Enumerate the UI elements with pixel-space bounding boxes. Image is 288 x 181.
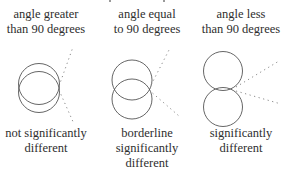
lower-circle	[112, 79, 152, 119]
angle-line-lower	[59, 90, 74, 124]
lower-circle	[204, 88, 243, 127]
lower-circle	[19, 72, 60, 113]
label-line: significantly	[195, 126, 287, 141]
significance-label-significant: significantly different	[195, 126, 287, 156]
label-line: different	[195, 141, 287, 156]
angle-line-lower	[149, 90, 179, 116]
panel-not-significant	[19, 47, 75, 124]
angle-line-upper	[149, 50, 169, 89]
significance-label-borderline: borderline significantly different	[100, 126, 194, 171]
angle-line-lower	[236, 91, 281, 104]
significance-label-not: not significantly different	[0, 126, 92, 156]
upper-circle	[204, 52, 243, 91]
label-line: borderline	[100, 126, 194, 141]
label-line: different	[0, 141, 92, 156]
label-line: not significantly	[0, 126, 92, 141]
upper-circle	[19, 64, 60, 105]
label-line: significantly	[100, 141, 194, 156]
upper-circle	[112, 60, 152, 100]
angle-line-upper	[59, 47, 73, 86]
panel-borderline	[112, 50, 179, 119]
panel-significant	[204, 52, 282, 127]
label-line: different	[100, 156, 194, 171]
